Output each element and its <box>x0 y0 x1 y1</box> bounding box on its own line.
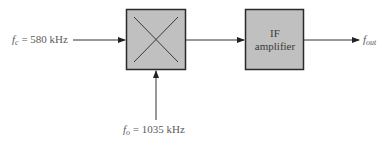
if-amplifier-label: IF amplifier <box>245 27 305 53</box>
carrier-frequency-label: fc = 580 kHz <box>12 34 68 47</box>
block-diagram-canvas <box>0 0 388 145</box>
oscillator-frequency-label: fo = 1035 kHz <box>123 124 185 137</box>
output-frequency-label: fout <box>363 34 376 47</box>
